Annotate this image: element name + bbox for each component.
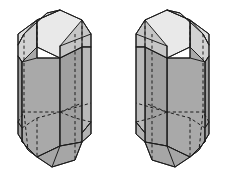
crystal-diagram-svg (0, 0, 227, 176)
right-crystal-front-left-prism-face (145, 47, 167, 146)
right-crystal-front-right-prism-face (167, 47, 205, 157)
left-crystal (18, 10, 91, 167)
left-crystal-front-left-prism-face (22, 47, 60, 157)
right-crystal (136, 10, 209, 167)
crystal-pair-figure (0, 0, 227, 176)
left-crystal-front-right-prism-face (60, 47, 82, 146)
